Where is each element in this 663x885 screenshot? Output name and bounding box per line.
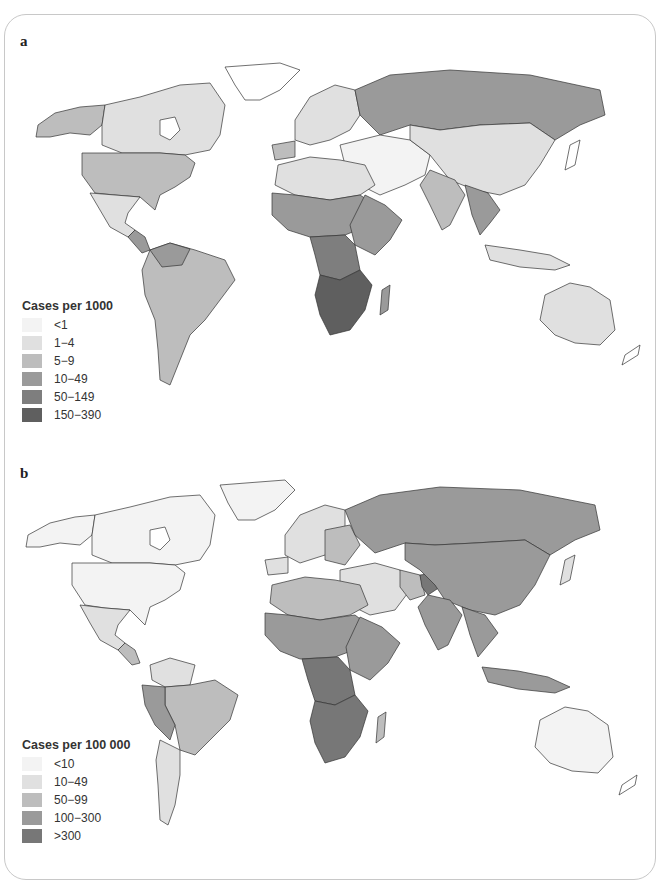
legend-label: <10 — [54, 757, 74, 771]
legend-swatch — [22, 318, 42, 332]
legend-swatch — [22, 372, 42, 386]
legend-b-title: Cases per 100 000 — [22, 738, 130, 752]
legend-label: 10−49 — [54, 372, 88, 386]
legend-a-item: <1 — [22, 316, 113, 334]
region-madagascar — [376, 712, 386, 743]
region-australia — [535, 707, 613, 773]
legend-a: Cases per 1000 <1 1−4 5−9 10−49 50−149 1… — [22, 299, 113, 424]
legend-swatch — [22, 757, 42, 771]
region-brazil — [165, 680, 238, 755]
region-colombia-venezuela — [150, 658, 195, 687]
legend-b-item: 100−300 — [22, 809, 130, 827]
legend-a-item: 50−149 — [22, 388, 113, 406]
region-greenland — [220, 480, 295, 520]
region-spain — [265, 557, 288, 575]
region-southern-africa — [310, 695, 368, 763]
region-alaska — [26, 515, 95, 547]
legend-b-item: 50−99 — [22, 791, 130, 809]
region-greenland — [225, 63, 300, 100]
region-south-america — [142, 243, 235, 385]
legend-swatch — [22, 336, 42, 350]
legend-b-item: 10−49 — [22, 773, 130, 791]
region-mexico — [90, 193, 140, 237]
legend-label: 10−49 — [54, 775, 88, 789]
legend-label: 50−99 — [54, 793, 88, 807]
region-japan — [560, 555, 575, 585]
legend-swatch — [22, 829, 42, 843]
legend-label: <1 — [54, 318, 68, 332]
legend-swatch — [22, 811, 42, 825]
region-southern-africa — [315, 270, 372, 335]
legend-label: 150−390 — [54, 408, 101, 422]
region-madagascar — [380, 285, 390, 315]
legend-swatch — [22, 408, 42, 422]
region-spain — [272, 141, 295, 160]
legend-b: Cases per 100 000 <10 10−49 50−99 100−30… — [22, 738, 130, 845]
region-central-africa — [302, 657, 355, 705]
legend-a-title: Cases per 1000 — [22, 299, 113, 313]
region-mexico — [80, 605, 130, 650]
legend-a-item: 1−4 — [22, 334, 113, 352]
legend-swatch — [22, 354, 42, 368]
legend-label: >300 — [54, 829, 81, 843]
legend-swatch — [22, 793, 42, 807]
region-japan — [565, 140, 580, 170]
region-australia — [540, 283, 615, 345]
legend-swatch — [22, 775, 42, 789]
legend-b-item: >300 — [22, 827, 130, 845]
region-europe — [295, 85, 360, 145]
region-southern-cone — [156, 740, 180, 825]
region-indonesia — [482, 667, 570, 693]
region-indonesia — [485, 245, 570, 270]
legend-label: 5−9 — [54, 354, 74, 368]
region-north-africa — [270, 577, 368, 620]
region-alaska — [36, 105, 105, 137]
legend-a-item: 150−390 — [22, 406, 113, 424]
region-central-america — [118, 643, 140, 665]
legend-label: 50−149 — [54, 390, 94, 404]
legend-b-item: <10 — [22, 755, 130, 773]
legend-a-item: 5−9 — [22, 352, 113, 370]
legend-label: 100−300 — [54, 811, 101, 825]
legend-label: 1−4 — [54, 336, 74, 350]
region-central-america — [128, 230, 150, 253]
legend-swatch — [22, 390, 42, 404]
region-central-africa — [310, 235, 360, 280]
legend-a-item: 10−49 — [22, 370, 113, 388]
